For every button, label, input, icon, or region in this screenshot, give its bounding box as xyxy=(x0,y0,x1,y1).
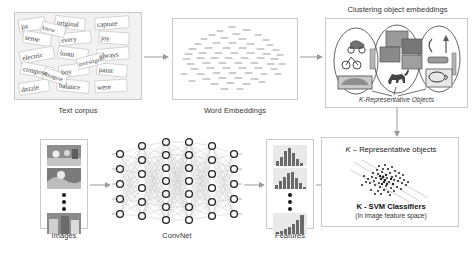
clustering-ellipses xyxy=(326,19,467,107)
features-panel xyxy=(266,139,314,229)
word-embeddings-panel xyxy=(172,18,298,100)
svg-text:paint: paint xyxy=(99,66,114,75)
images-label: Images xyxy=(34,231,94,240)
feature-histogram xyxy=(273,168,307,189)
svm-title-text: K - SVM Classifiers xyxy=(356,202,425,211)
feature-histogram xyxy=(273,145,307,166)
svm-classifiers-subtitle: (In image feature space) xyxy=(322,212,460,219)
features-label: Features xyxy=(260,231,320,240)
svm-hyperplane-scatter xyxy=(348,160,436,202)
word-collage-image: pa original capture sense every joy elec… xyxy=(15,13,141,99)
arrow-embeddings-to-clustering xyxy=(300,52,324,62)
convnet-diagram xyxy=(112,136,242,230)
svm-classifiers-title: K - SVM Classifiers xyxy=(322,202,460,211)
svg-text:every: every xyxy=(61,35,78,45)
word-embeddings-label: Word Embeddings xyxy=(172,106,298,115)
arrow-convnet-to-features xyxy=(244,180,266,190)
features-ellipsis xyxy=(273,192,307,212)
svg-text:joy: joy xyxy=(100,34,111,43)
image-thumbnail xyxy=(47,145,81,166)
text-corpus-panel: pa original capture sense every joy elec… xyxy=(14,12,142,100)
convnet-label: ConvNet xyxy=(147,231,207,240)
figure-canvas: pa original capture sense every joy elec… xyxy=(0,0,473,255)
images-ellipsis xyxy=(47,192,81,212)
images-panel xyxy=(40,139,88,229)
text-corpus-label: Text corpus xyxy=(14,106,142,115)
image-thumbnail xyxy=(47,168,81,189)
svg-text:capture: capture xyxy=(97,20,118,29)
classifiers-panel: KK – Representative objects – Representa… xyxy=(321,137,459,227)
classifiers-header: KK – Representative objects – Representa… xyxy=(322,145,460,154)
arrow-images-to-convnet xyxy=(90,180,112,190)
svm-scatter-plot xyxy=(348,160,436,202)
classifiers-header-rest: – Representative objects xyxy=(351,145,437,154)
neural-network-graph xyxy=(112,136,242,230)
arrow-corpus-to-embeddings xyxy=(144,52,170,62)
svg-text:were: were xyxy=(97,83,111,92)
scatter-plot-embedding xyxy=(173,19,297,99)
arrow-clustering-to-classifiers xyxy=(392,108,402,138)
clustering-panel xyxy=(325,18,468,108)
clustering-header: Clustering object embeddings xyxy=(325,5,470,14)
k-representative-objects-caption: K-Representative Objects xyxy=(325,96,468,103)
